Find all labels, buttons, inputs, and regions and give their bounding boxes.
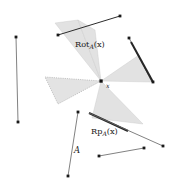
endpoint-dot [67,175,70,178]
endpoint-dot [17,121,20,124]
endpoint-dot [152,81,155,84]
endpoint-dot [15,36,18,39]
rotation-label-main: Rot [75,39,90,49]
endpoint-dot [119,15,122,18]
endpoint-dot [98,155,101,158]
geometry-figure: RotA(x) RpA(x) x A [0,0,174,190]
center-point [99,79,102,82]
center-point-label: x [106,82,110,90]
endpoint-dot [128,37,131,40]
endpoint-dot [77,111,80,114]
figure-canvas: RotA(x) RpA(x) x A [0,0,174,190]
endpoint-dot [162,145,165,148]
set-label: A [73,145,80,155]
reflection-label-argument: (x) [107,126,118,136]
rotation-label-argument: (x) [94,39,105,49]
endpoint-dot [57,34,60,37]
endpoint-dot [143,147,146,150]
reflection-label-main: Rp [91,126,102,136]
